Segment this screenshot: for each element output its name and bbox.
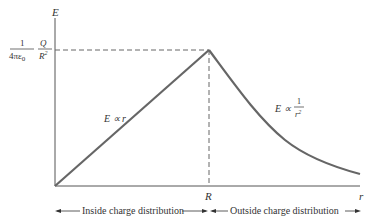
inside-region-label: Inside charge distribution: [82, 205, 184, 216]
svg-text:r2: r2: [295, 109, 301, 119]
outside-curve-label: E ∝ 1 r2: [274, 97, 304, 119]
svg-text:Q: Q: [40, 38, 47, 48]
svg-text:1: 1: [20, 38, 25, 48]
y-tick-peak-value: 1 4πε0 Q R2: [9, 38, 52, 63]
x-tick-R: R: [204, 190, 212, 202]
inside-curve-label: E ∝ r: [103, 113, 126, 124]
inside-linear-curve: [55, 50, 209, 186]
inside-region-indicator: Inside charge distribution: [55, 205, 208, 216]
svg-text:E ∝: E ∝: [274, 103, 292, 114]
y-axis-label: E: [51, 6, 59, 18]
x-axis-label: r: [359, 190, 364, 202]
outside-region-label: Outside charge distribution: [230, 205, 339, 216]
svg-text:1: 1: [297, 97, 301, 106]
outside-region-indicator: Outside charge distribution: [210, 205, 361, 216]
field-diagram: E r R 1 4πε0 Q R2 E ∝ r E ∝ 1 r2 Inside …: [0, 0, 370, 218]
svg-text:4πε0: 4πε0: [9, 51, 26, 63]
svg-text:R2: R2: [38, 50, 48, 61]
